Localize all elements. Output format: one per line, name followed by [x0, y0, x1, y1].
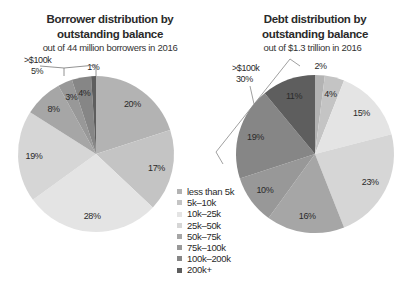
legend-swatch — [177, 268, 182, 273]
legend-label: less than 5k — [187, 186, 234, 197]
right-pie-chart: 2%4%15%23%16%10%19%11% — [236, 61, 394, 233]
slice-label: 15% — [353, 108, 370, 118]
right-annotation-label-2: 30% — [236, 74, 253, 84]
slice-label: 16% — [299, 211, 316, 221]
legend-swatch — [177, 212, 182, 217]
slice-label: 23% — [362, 177, 379, 187]
slice-label: 20% — [124, 99, 141, 109]
slice-label: 19% — [247, 132, 264, 142]
legend-item: less than 5k — [177, 186, 234, 197]
left-annotation-label-1: >$100k — [24, 55, 52, 65]
legend-swatch — [177, 223, 182, 228]
slice-label: 4% — [324, 89, 337, 99]
left-pie-chart: 20%17%28%19%8%3%4%1% — [18, 62, 174, 232]
legend-swatch — [177, 256, 182, 261]
slice-label: 17% — [148, 163, 165, 173]
legend-label: 100k–200k — [187, 253, 231, 264]
legend-label: 5k–10k — [187, 197, 216, 208]
slice-label: 2% — [314, 61, 327, 71]
legend-label: 50k–75k — [187, 231, 221, 242]
legend-label: 25k–50k — [187, 220, 221, 231]
legend-label: 10k–25k — [187, 208, 221, 219]
right-annotation-label-1: >$100k — [232, 63, 260, 73]
slice-label: 19% — [26, 151, 43, 161]
slice-label: 4% — [78, 88, 91, 98]
legend-swatch — [177, 245, 182, 250]
slice-label: 1% — [87, 62, 100, 72]
legend-label: 200k+ — [187, 264, 212, 275]
legend-swatch — [177, 234, 182, 239]
legend: less than 5k 5k–10k 10k–25k 25k–50k 50k–… — [177, 186, 234, 276]
slice-label: 28% — [84, 211, 101, 221]
legend-item: 50k–75k — [177, 231, 234, 242]
slice-label: 11% — [286, 91, 303, 101]
left-annotation-label-2: 5% — [31, 66, 44, 76]
legend-item: 10k–25k — [177, 208, 234, 219]
slice-label: 3% — [65, 92, 78, 102]
legend-swatch — [177, 189, 182, 194]
slice-label: 8% — [47, 104, 60, 114]
slice-label: 10% — [256, 185, 273, 195]
legend-item: 5k–10k — [177, 197, 234, 208]
legend-item: 25k–50k — [177, 220, 234, 231]
legend-label: 75k–100k — [187, 242, 226, 253]
legend-swatch — [177, 200, 182, 205]
legend-item: 200k+ — [177, 264, 234, 275]
legend-item: 100k–200k — [177, 253, 234, 264]
legend-item: 75k–100k — [177, 242, 234, 253]
